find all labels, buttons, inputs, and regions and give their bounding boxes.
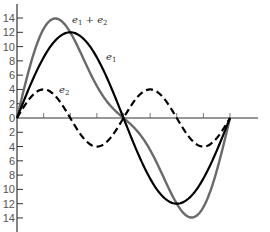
e2-curve-label: e2 — [59, 84, 69, 97]
y-tick-label: 6 — [9, 69, 15, 81]
y-tick-label: 6 — [9, 155, 15, 167]
axes: 141210864202468101214 — [3, 4, 258, 232]
y-tick-label: 10 — [3, 183, 15, 195]
y-tick-label: 2 — [9, 126, 15, 138]
y-tick-label: 14 — [3, 212, 15, 224]
y-tick-label: 4 — [9, 83, 15, 95]
y-tick-label: 10 — [3, 41, 15, 53]
y-tick-label: 0 — [9, 112, 15, 124]
y-tick-label: 14 — [3, 12, 15, 24]
y-tick-label: 12 — [3, 198, 15, 210]
e1-curve-label: e1 — [106, 51, 116, 64]
waveform-chart: 141210864202468101214 e1 + e2 e1 e2 — [0, 0, 270, 232]
x-ticks — [44, 113, 230, 118]
y-tick-label: 8 — [9, 169, 15, 181]
y-tick-label: 2 — [9, 98, 15, 110]
sum-curve-label: e1 + e2 — [72, 14, 108, 27]
y-tick-label: 4 — [9, 141, 15, 153]
y-tick-label: 12 — [3, 26, 15, 38]
y-tick-label: 8 — [9, 55, 15, 67]
